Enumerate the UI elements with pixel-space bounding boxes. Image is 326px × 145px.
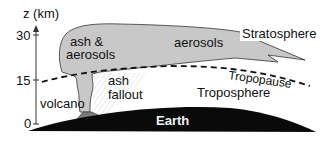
axis-title: z (km) [23, 6, 59, 21]
label-ash-fallout-1: ash [108, 73, 129, 88]
tick-label-0: 0 [24, 116, 31, 131]
axis-arrow-icon [33, 25, 39, 32]
label-earth: Earth [156, 113, 189, 128]
label-stratosphere: Stratosphere [242, 26, 316, 41]
z-axis [33, 25, 39, 124]
tick-label-30: 30 [16, 28, 30, 43]
label-troposphere: Troposphere [197, 85, 270, 100]
tick-label-15: 15 [16, 73, 30, 88]
label-ash-fallout-2: fallout [108, 87, 143, 102]
label-ash-aerosols-2: aerosols [66, 47, 116, 62]
volcanic-plume-diagram: z (km) 30 15 0 ash & aerosols aerosols S… [0, 0, 326, 145]
label-aerosols: aerosols [174, 35, 224, 50]
label-volcano: volcano [40, 96, 85, 111]
